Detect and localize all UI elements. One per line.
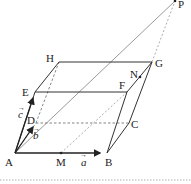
line-GP (152, 1, 175, 62)
point-N (139, 76, 142, 79)
vector-c-arrow-mark: → (18, 104, 25, 112)
parallelepiped-diagram: A B M C D E F G H N P a → b → c → (0, 0, 191, 184)
edge-EH (35, 62, 59, 92)
label-B: B (105, 156, 112, 168)
label-F: F (119, 79, 125, 91)
label-A: A (5, 156, 13, 168)
edge-BC (107, 123, 129, 153)
label-M: M (56, 156, 66, 168)
label-G: G (155, 57, 163, 69)
vector-b-arrow-mark: → (33, 125, 40, 133)
vector-a-arrow-mark: → (80, 151, 87, 159)
label-E: E (22, 86, 29, 98)
label-H: H (46, 52, 54, 64)
label-P: P (178, 0, 184, 10)
label-C: C (131, 118, 138, 130)
label-N: N (130, 68, 138, 80)
auxiliary-lines (61, 1, 175, 153)
point-M (60, 152, 63, 155)
vector-b-arrow (15, 127, 33, 153)
